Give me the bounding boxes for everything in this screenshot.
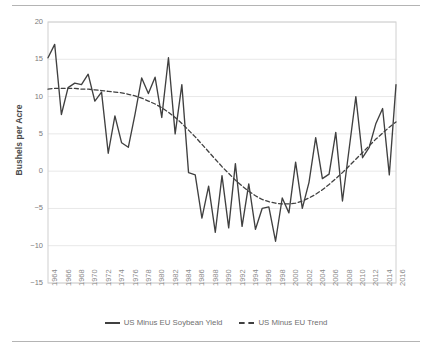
axis-frame — [48, 22, 396, 283]
chart-legend: US Minus EU Soybean Yield US Minus EU Tr… — [0, 318, 432, 327]
y-tick-label: 15 — [17, 55, 43, 63]
x-tick-label: 1996 — [265, 269, 273, 286]
x-tick-label: 1986 — [198, 269, 206, 286]
x-tick-label: 1982 — [172, 269, 180, 286]
series-lines — [48, 44, 396, 241]
gridlines — [48, 22, 396, 283]
x-tick-label: 2012 — [372, 269, 380, 286]
y-tick-label: 20 — [17, 18, 43, 26]
series-line-0 — [48, 44, 396, 241]
x-tick-label: 1964 — [51, 269, 59, 286]
x-tick-label: 2006 — [332, 269, 340, 286]
x-tick-label: 2014 — [386, 269, 394, 286]
x-tick-label: 1968 — [78, 269, 86, 286]
y-tick-label: −15 — [17, 279, 43, 287]
x-tick-label: 1984 — [185, 269, 193, 286]
x-tick-label: 1992 — [239, 269, 247, 286]
x-tick-label: 1970 — [91, 269, 99, 286]
y-tick-label: 5 — [17, 130, 43, 138]
x-tick-label: 2002 — [306, 269, 314, 286]
x-tick-label: 1980 — [158, 269, 166, 286]
x-tick-label: 1994 — [252, 269, 260, 286]
legend-label-soybean-yield: US Minus EU Soybean Yield — [124, 318, 223, 327]
x-tick-label: 2016 — [399, 269, 407, 286]
legend-item-trend: US Minus EU Trend — [239, 318, 327, 327]
x-tick-label: 1988 — [212, 269, 220, 286]
x-tick-label: 2004 — [319, 269, 327, 286]
dashed-line-swatch-icon — [239, 322, 254, 324]
x-tick-label: 1990 — [225, 269, 233, 286]
x-tick-label: 1978 — [145, 269, 153, 286]
x-tick-label: 1998 — [279, 269, 287, 286]
x-tick-label: 2008 — [346, 269, 354, 286]
x-tick-label: 1976 — [132, 269, 140, 286]
plot-area — [0, 0, 432, 349]
plot-border — [48, 22, 396, 283]
y-tick-label: 0 — [17, 167, 43, 175]
y-tick-label: 10 — [17, 93, 43, 101]
y-tick-label: −10 — [17, 242, 43, 250]
legend-label-trend: US Minus EU Trend — [258, 318, 327, 327]
x-tick-label: 1972 — [105, 269, 113, 286]
y-tick-label: −5 — [17, 204, 43, 212]
chart-container: Bushels per Acre 20151050−5−10−15 196419… — [0, 0, 432, 349]
legend-item-soybean-yield: US Minus EU Soybean Yield — [105, 318, 223, 327]
solid-line-swatch-icon — [105, 322, 120, 324]
x-tick-label: 2010 — [359, 269, 367, 286]
x-tick-label: 1966 — [65, 269, 73, 286]
x-tick-label: 2000 — [292, 269, 300, 286]
x-tick-label: 1974 — [118, 269, 126, 286]
